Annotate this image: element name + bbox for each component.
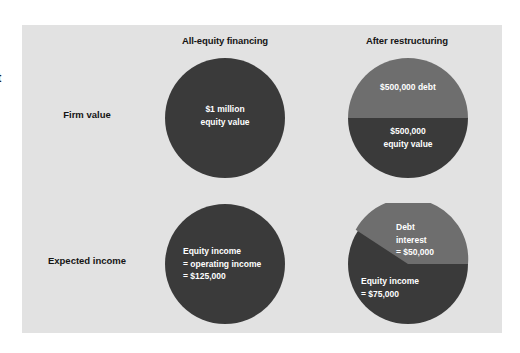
cropped-edge-glyph: t — [0, 71, 5, 85]
caption-line-1: Equity income — [183, 245, 287, 258]
pie-caption-debt-interest: Debt interest = $50,000 — [396, 221, 466, 259]
figure-panel: All-equity financing After restructuring… — [22, 25, 502, 333]
caption-line-2: = $75,000 — [361, 288, 461, 301]
column-header-all-equity-financing: All-equity financing — [150, 35, 300, 46]
pie-caption-equity-income: Equity income = operating income = $125,… — [183, 245, 287, 283]
caption-line-1: $1 million — [164, 103, 286, 116]
row-label-firm-value: Firm value — [32, 109, 142, 120]
caption-line-1: Debt — [396, 221, 466, 234]
pie-caption-equity-income: Equity income = $75,000 — [361, 275, 461, 300]
caption-line-3: = $50,000 — [396, 246, 466, 259]
caption-line-2: equity value — [347, 138, 469, 151]
caption-line-1: Equity income — [361, 275, 461, 288]
pie-chart-expected-income-restructured: Debt interest = $50,000 Equity income = … — [347, 203, 469, 325]
pie-caption-equity-value: $500,000 equity value — [347, 125, 469, 150]
pie-chart-firm-value-restructured: $500,000 debt $500,000 equity value — [347, 57, 469, 179]
pie-chart-svg — [347, 57, 469, 179]
caption-line-2: interest — [396, 234, 466, 247]
pie-chart-firm-value-all-equity: $1 million equity value — [164, 57, 286, 179]
caption-line-2: = operating income — [183, 258, 287, 271]
pie-caption-equity-value: $1 million equity value — [164, 103, 286, 128]
caption-line-1: $500,000 — [347, 125, 469, 138]
row-label-expected-income: Expected income — [26, 255, 148, 266]
pie-caption-debt: $500,000 debt — [347, 81, 469, 94]
caption-line-3: = $125,000 — [183, 270, 287, 283]
column-header-after-restructuring: After restructuring — [332, 35, 482, 46]
caption-line-1: $500,000 debt — [347, 81, 469, 94]
pie-chart-expected-income-all-equity: Equity income = operating income = $125,… — [164, 203, 286, 325]
caption-line-2: equity value — [164, 116, 286, 129]
